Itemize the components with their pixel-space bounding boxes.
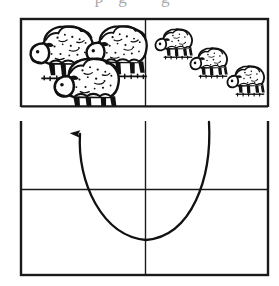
figure-root: pg g (0, 0, 279, 286)
sheep-perspective-diagram (0, 0, 279, 286)
